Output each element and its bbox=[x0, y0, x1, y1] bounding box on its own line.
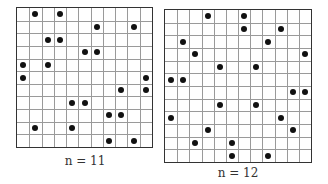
dot bbox=[131, 138, 137, 144]
dot bbox=[302, 89, 308, 95]
dot bbox=[82, 100, 88, 106]
grid-line bbox=[17, 71, 152, 72]
grid-line bbox=[165, 149, 311, 150]
grid-line bbox=[17, 96, 152, 97]
dot bbox=[45, 62, 51, 68]
dot bbox=[290, 89, 296, 95]
dot bbox=[143, 75, 149, 81]
dot bbox=[205, 13, 211, 19]
dot bbox=[20, 75, 26, 81]
dot bbox=[180, 39, 186, 45]
grid-line bbox=[66, 8, 67, 147]
grid-line bbox=[165, 111, 311, 112]
grid-line bbox=[275, 10, 276, 162]
dot bbox=[192, 140, 198, 146]
dot bbox=[180, 77, 186, 83]
grid-line bbox=[91, 8, 92, 147]
dot bbox=[241, 26, 247, 32]
grid-line bbox=[299, 10, 300, 162]
grid-line bbox=[29, 8, 30, 147]
grid-line bbox=[103, 8, 104, 147]
grid-line bbox=[17, 84, 152, 85]
dot bbox=[217, 64, 223, 70]
grid-line bbox=[165, 124, 311, 125]
dot bbox=[290, 127, 296, 133]
dot bbox=[69, 100, 75, 106]
grid-n11-label: n = 11 bbox=[65, 154, 106, 168]
dot bbox=[118, 112, 124, 118]
grid-line bbox=[17, 59, 152, 60]
dot bbox=[168, 115, 174, 121]
dot bbox=[106, 138, 112, 144]
dot bbox=[278, 115, 284, 121]
grid-line bbox=[115, 8, 116, 147]
grid-line bbox=[165, 99, 311, 100]
dot bbox=[229, 153, 235, 159]
grid-line bbox=[42, 8, 43, 147]
grid-line bbox=[17, 109, 152, 110]
grid-n12 bbox=[164, 9, 312, 163]
grid-line bbox=[262, 10, 263, 162]
dot bbox=[302, 51, 308, 57]
grid-line bbox=[78, 8, 79, 147]
dot bbox=[253, 64, 259, 70]
dot bbox=[57, 37, 63, 43]
grid-line bbox=[17, 122, 152, 123]
dot bbox=[217, 102, 223, 108]
dot bbox=[118, 87, 124, 93]
grid-line bbox=[17, 134, 152, 135]
dot bbox=[131, 24, 137, 30]
dot bbox=[229, 140, 235, 146]
dot bbox=[168, 77, 174, 83]
grid-n12-label: n = 12 bbox=[218, 166, 259, 180]
dot bbox=[192, 51, 198, 57]
grid-line bbox=[165, 137, 311, 138]
grid-n11 bbox=[16, 7, 153, 148]
dot bbox=[32, 11, 38, 17]
grid-line bbox=[140, 8, 141, 147]
grid-line bbox=[17, 33, 152, 34]
dot bbox=[20, 62, 26, 68]
dot bbox=[57, 11, 63, 17]
dot bbox=[94, 24, 100, 30]
grid-line bbox=[250, 10, 251, 162]
dot bbox=[265, 153, 271, 159]
dot bbox=[253, 102, 259, 108]
grid-line bbox=[127, 8, 128, 147]
dot bbox=[143, 87, 149, 93]
dot bbox=[278, 26, 284, 32]
grid-line bbox=[287, 10, 288, 162]
grid-line bbox=[54, 8, 55, 147]
grid-line bbox=[17, 46, 152, 47]
dot bbox=[106, 112, 112, 118]
dot bbox=[241, 13, 247, 19]
dot bbox=[82, 49, 88, 55]
dot bbox=[32, 125, 38, 131]
dot bbox=[45, 37, 51, 43]
grid-line bbox=[17, 21, 152, 22]
dot bbox=[205, 127, 211, 133]
dot bbox=[69, 125, 75, 131]
grid-line bbox=[165, 86, 311, 87]
dot bbox=[94, 49, 100, 55]
dot bbox=[265, 39, 271, 45]
